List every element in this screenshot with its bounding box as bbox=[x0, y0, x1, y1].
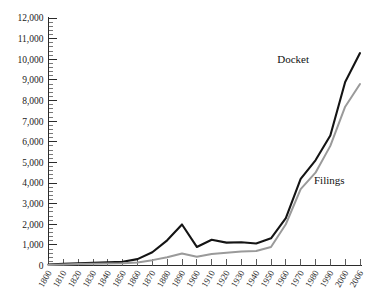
y-axis-tick-label: 12,000 bbox=[17, 13, 43, 23]
y-axis-tick-label: 10,000 bbox=[17, 55, 43, 65]
supreme-court-caseload-line-chart: 01,0002,0003,0004,0005,0006,0007,0008,00… bbox=[0, 0, 372, 303]
y-axis-tick-label: 1,000 bbox=[22, 240, 44, 250]
y-axis-tick-label: 6,000 bbox=[22, 137, 44, 147]
chart-canvas: 01,0002,0003,0004,0005,0006,0007,0008,00… bbox=[0, 0, 372, 303]
x-axis-tick-label: 1870 bbox=[140, 268, 158, 289]
x-axis-tick-label: 1960 bbox=[273, 268, 291, 289]
x-axis-tick-label: 1920 bbox=[214, 268, 232, 289]
x-axis-tick-label: 1950 bbox=[259, 268, 277, 289]
x-axis-tick-label: 1890 bbox=[170, 268, 188, 289]
x-axis-tick-label: 1990 bbox=[318, 268, 336, 289]
y-axis: 01,0002,0003,0004,0005,0006,0007,0008,00… bbox=[17, 13, 56, 271]
x-axis-tick-label: 1840 bbox=[95, 268, 113, 289]
series-line-docket bbox=[49, 53, 361, 264]
x-axis-tick-label: 1910 bbox=[199, 268, 217, 289]
x-axis-tick-label: 1880 bbox=[155, 268, 173, 289]
x-axis-tick-label: 1860 bbox=[125, 268, 143, 289]
y-axis-tick-label: 7,000 bbox=[22, 117, 44, 127]
y-axis-tick-label: 4,000 bbox=[22, 178, 44, 188]
x-axis-tick-label: 1930 bbox=[229, 268, 247, 289]
x-axis-tick-label: 1980 bbox=[303, 268, 321, 289]
y-axis-tick-label: 5,000 bbox=[22, 158, 44, 168]
series-label-filings: Filings bbox=[314, 174, 345, 186]
x-axis-tick-label: 1970 bbox=[288, 268, 306, 289]
y-axis-tick-label: 0 bbox=[39, 261, 44, 271]
x-axis-tick-label: 2006 bbox=[348, 268, 366, 289]
x-axis-tick-label: 1850 bbox=[110, 268, 128, 289]
x-axis-tick-label: 1900 bbox=[184, 268, 202, 289]
y-axis-tick-label: 11,000 bbox=[18, 34, 44, 44]
series-lines bbox=[49, 53, 361, 265]
y-axis-tick-label: 2,000 bbox=[22, 220, 44, 230]
series-label-docket: Docket bbox=[277, 53, 309, 65]
x-axis-tick-label: 1820 bbox=[66, 268, 84, 289]
x-axis-tick-label: 1800 bbox=[36, 268, 54, 289]
y-axis-tick-label: 9,000 bbox=[22, 75, 44, 85]
x-axis-tick-label: 1810 bbox=[51, 268, 69, 289]
y-axis-tick-label: 8,000 bbox=[22, 96, 44, 106]
x-axis-tick-label: 1940 bbox=[244, 268, 262, 289]
x-axis-tick-label: 2000 bbox=[333, 268, 351, 289]
y-axis-tick-label: 3,000 bbox=[22, 199, 44, 209]
x-axis-tick-label: 1830 bbox=[81, 268, 99, 289]
